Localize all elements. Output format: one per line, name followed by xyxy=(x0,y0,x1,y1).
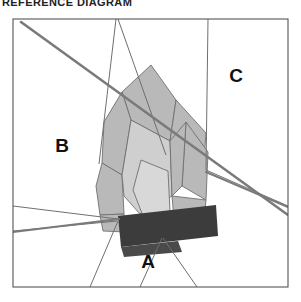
diagram-page: REFERENCE DIAGRAM ABC xyxy=(0,0,301,302)
label-region-a: A xyxy=(141,251,155,272)
diagram-canvas: ABC xyxy=(0,0,301,302)
reference-diagram: ABC xyxy=(0,0,301,302)
label-region-b: B xyxy=(55,135,69,156)
label-region-c: C xyxy=(229,65,243,86)
